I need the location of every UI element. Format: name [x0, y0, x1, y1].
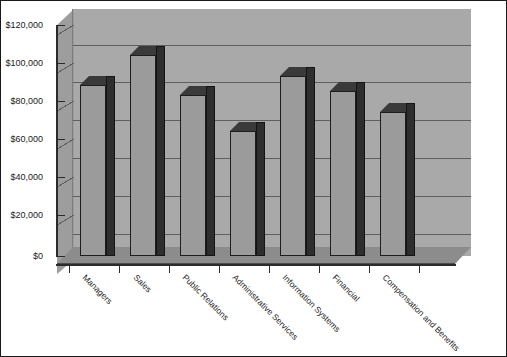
gridline-side-40000	[57, 177, 74, 187]
x-axis-label-public-relations: Public Relations	[181, 273, 230, 322]
chart-screenshot: $120,000 $100,000 $80,000 $60,000 $40,00…	[0, 0, 507, 357]
y-axis-tick	[58, 101, 65, 102]
bar-front-face	[380, 112, 406, 256]
x-axis-tick	[119, 265, 120, 273]
chart-plot-area: $120,000 $100,000 $80,000 $60,000 $40,00…	[1, 1, 507, 357]
x-axis-tick	[219, 265, 220, 273]
x-axis-tick	[169, 265, 170, 273]
bar-side-face	[156, 46, 165, 256]
bar-side-face	[306, 67, 315, 256]
x-axis-tick	[419, 265, 420, 273]
y-axis-tick	[58, 177, 65, 178]
x-axis-label-managers: Managers	[81, 273, 114, 306]
y-axis-line	[56, 25, 58, 257]
x-axis-label-compensation-and-benefits: Compensation and Benefits	[381, 273, 461, 353]
y-axis-tick	[58, 63, 65, 64]
x-axis-label-sales: Sales	[132, 273, 153, 294]
bar-side-face	[256, 122, 265, 256]
x-axis-tick	[69, 265, 70, 273]
x-axis-tick	[269, 265, 270, 273]
bar-side-face	[106, 76, 115, 256]
bar-front-face	[180, 95, 206, 256]
gridline-side-60000	[57, 139, 74, 149]
y-axis-tick	[58, 25, 65, 26]
bar-front-face	[330, 91, 356, 256]
y-axis-tick	[58, 215, 65, 216]
gridline-side-120000	[57, 25, 74, 35]
bar-side-face	[406, 103, 415, 256]
bar-front-face	[130, 55, 156, 256]
x-axis-tick	[319, 265, 320, 273]
gridline-100000	[73, 45, 471, 46]
x-axis-tick	[369, 265, 370, 273]
x-axis-line	[56, 264, 456, 266]
bar-front-face	[280, 76, 306, 256]
x-axis-label-financial: Financial	[331, 273, 361, 303]
y-axis-tick	[58, 256, 65, 257]
bar-front-face	[80, 85, 106, 256]
gridline-side-20000	[57, 215, 74, 225]
bar-side-face	[206, 86, 215, 256]
gridline-side-100000	[57, 63, 74, 73]
y-axis-tick	[58, 139, 65, 140]
gridline-side-80000	[57, 101, 74, 111]
bar-front-face	[230, 131, 256, 256]
bar-side-face	[356, 82, 365, 256]
